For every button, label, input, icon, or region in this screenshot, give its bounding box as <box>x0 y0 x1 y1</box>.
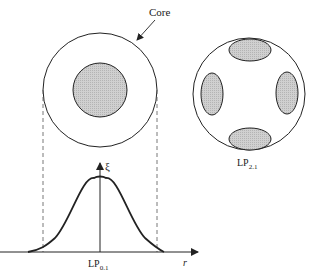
core-label: Core <box>149 6 171 18</box>
lobe-right <box>276 72 298 114</box>
mode-field-profile-curve <box>28 177 164 253</box>
lobe-top <box>229 39 271 61</box>
mode-label-lp21: LP2.1 <box>237 157 258 171</box>
lobe-left <box>201 73 223 115</box>
core-pointer-arrow <box>137 20 155 40</box>
fiber-cross-section-lp21 <box>193 38 305 150</box>
mode-spot <box>73 63 127 117</box>
x-axis-label: r <box>183 257 187 268</box>
lobe-bottom <box>229 128 271 150</box>
y-axis-label: ξ <box>105 160 110 173</box>
fiber-mode-diagram: Core LP2.1 ξ r LP0.1 <box>0 0 315 272</box>
mode-label-lp01: LP0.1 <box>88 258 109 272</box>
fiber-cross-section-lp01 <box>43 33 157 147</box>
